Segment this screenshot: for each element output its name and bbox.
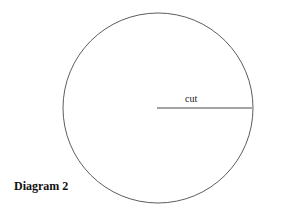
cut-label: cut bbox=[185, 93, 197, 104]
diagram-title: Diagram 2 bbox=[14, 179, 68, 194]
